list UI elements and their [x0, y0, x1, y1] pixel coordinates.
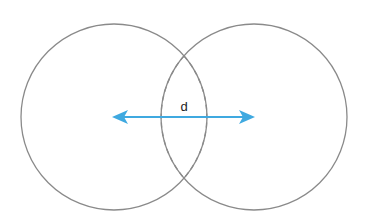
overlapping-circles-diagram: d [0, 0, 376, 223]
distance-label: d [180, 99, 187, 114]
